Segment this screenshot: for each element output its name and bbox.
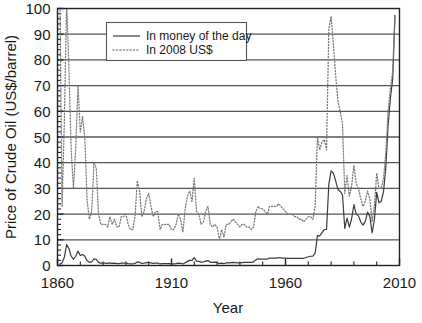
y-tick-label-80: 80 [34, 51, 51, 68]
y-tick-label-10: 10 [34, 231, 51, 248]
y-tick-label-70: 70 [34, 77, 51, 94]
chart-legend: In money of the day In 2008 US$ [107, 23, 252, 61]
legend-label-money-of-the-day: In money of the day [146, 29, 251, 43]
crude-oil-price-chart: 0102030405060708090100 1860191019602010 … [0, 0, 422, 323]
x-tick-label-1860: 1860 [41, 274, 74, 291]
x-tick-label-1910: 1910 [155, 274, 188, 291]
y-tick-label-20: 20 [34, 206, 51, 223]
y-tick-label-60: 60 [34, 103, 51, 120]
y-axis-title: Price of Crude Oil (US$/barrel) [2, 35, 19, 239]
x-axis-title: Year [213, 299, 243, 316]
x-tick-label-2010: 2010 [383, 274, 416, 291]
y-tick-label-100: 100 [25, 0, 50, 17]
y-tick-label-30: 30 [34, 180, 51, 197]
chart-canvas: 0102030405060708090100 1860191019602010 … [0, 0, 422, 323]
y-tick-label-90: 90 [34, 26, 51, 43]
x-tick-label-1960: 1960 [269, 274, 302, 291]
y-tick-label-50: 50 [34, 129, 51, 146]
legend-label-2008-usd: In 2008 US$ [146, 43, 213, 57]
y-tick-label-40: 40 [34, 154, 51, 171]
y-tick-label-0: 0 [42, 257, 50, 274]
